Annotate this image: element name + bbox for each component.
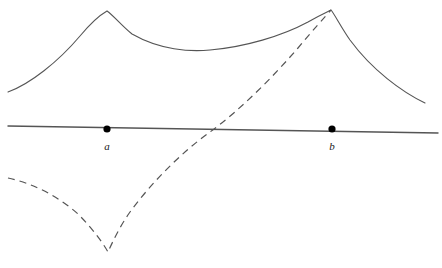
point-label-a: a: [104, 140, 110, 152]
cusp-curves-figure: a b: [0, 0, 442, 268]
point-label-b: b: [329, 140, 335, 152]
point-marker-b: [328, 125, 335, 132]
solid-cusp-curve: [8, 10, 425, 103]
point-marker-a: [103, 125, 110, 132]
figure-canvas: a b: [0, 0, 442, 268]
horizontal-line: [8, 126, 438, 133]
